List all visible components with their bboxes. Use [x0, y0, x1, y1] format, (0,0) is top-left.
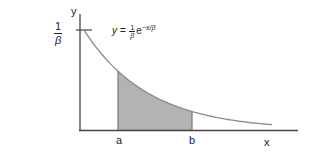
equation-numerator: 1 [129, 24, 135, 32]
density-equation: y = 1βe−x/β [112, 24, 155, 39]
marker-b-label: b [189, 135, 195, 146]
equation-denominator: β [129, 32, 135, 39]
y-tick-label: 1 β [54, 21, 62, 46]
y-tick-denominator: β [54, 34, 62, 46]
y-axis-label: y [71, 6, 77, 17]
equation-exponent: −x/β [142, 24, 156, 31]
equation-fraction: 1β [129, 24, 135, 39]
x-axis-label: x [264, 137, 270, 148]
marker-a-label: a [116, 135, 122, 146]
y-tick-numerator: 1 [54, 21, 62, 34]
equation-lhs: y = [112, 25, 128, 36]
